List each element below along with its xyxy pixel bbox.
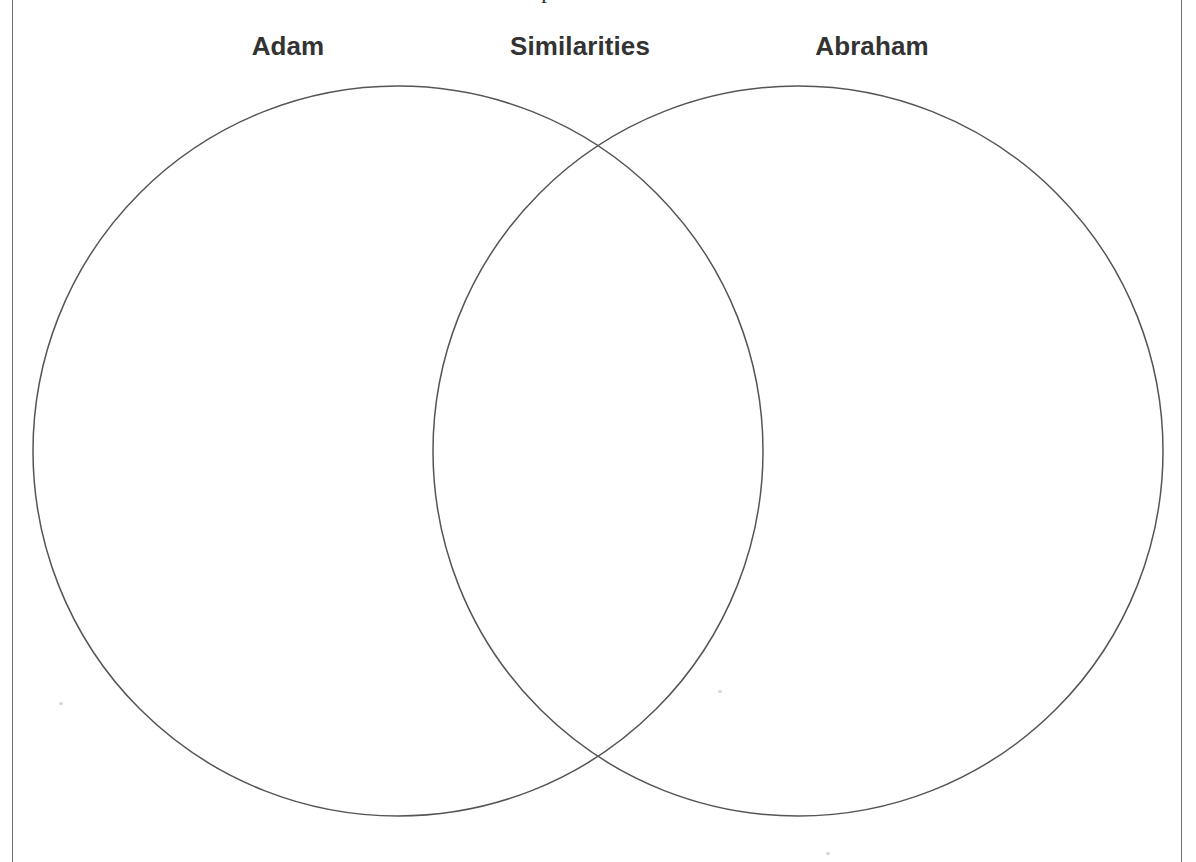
venn-circle-right[interactable] <box>433 86 1163 816</box>
scan-speck-icon <box>718 690 722 693</box>
venn-diagram <box>0 0 1196 862</box>
scan-speck-icon <box>826 852 830 855</box>
venn-circle-left[interactable] <box>33 86 763 816</box>
scan-speck-icon <box>59 702 63 705</box>
worksheet-page: Compare and Contrast Adam Similarities A… <box>0 0 1196 862</box>
